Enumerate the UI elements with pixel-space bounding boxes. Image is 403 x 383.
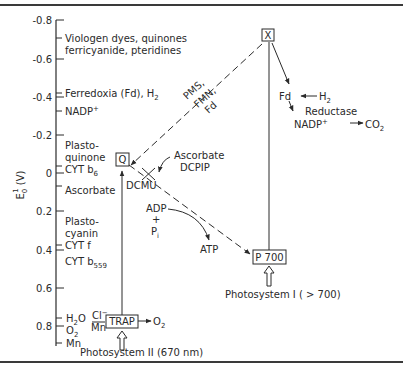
svg-text:Viologen dyes, quinones: Viologen dyes, quinones [65,33,187,44]
svg-text:Ferredoxia (Fd), H2: Ferredoxia (Fd), H2 [65,88,159,102]
svg-text:TRAP: TRAP [108,316,135,327]
svg-text:ferricyanide, pteridines: ferricyanide, pteridines [65,45,181,56]
svg-text:NADP+: NADP+ [294,118,328,130]
axis-title: E01(V) [12,170,29,199]
svg-text:Mn: Mn [66,338,81,349]
svg-text:DCPIP: DCPIP [180,162,210,173]
svg-text:E01(V): E01(V) [12,170,29,199]
photosystem-1-label: Photosystem I ( > 700) [225,289,341,300]
ps1-light-arrow [264,266,274,286]
svg-text:Mn: Mn [91,322,106,333]
svg-text:Ascorbate: Ascorbate [174,150,224,161]
tick-label: -0.2 [32,130,52,141]
node-trap: TRAP [106,315,138,328]
tick-label: 0.6 [36,283,52,294]
svg-text:P 700: P 700 [255,252,283,263]
svg-text:Fd: Fd [279,91,291,102]
svg-text:CO2: CO2 [365,119,384,133]
svg-text:CYT b6: CYT b6 [65,164,99,178]
svg-text:H2: H2 [319,91,331,105]
node-q: Q [116,153,129,166]
node-p700: P 700 [253,250,286,264]
svg-text:CYT b559: CYT b559 [65,256,107,270]
tick-label: 0.2 [36,206,52,217]
svg-text:+: + [152,214,160,225]
svg-text:Plasto-: Plasto- [65,216,99,227]
tick-label: -0.6 [32,54,52,65]
svg-text:X: X [265,30,272,41]
svg-text:Pi: Pi [151,226,159,240]
svg-text:Plasto-: Plasto- [65,140,99,151]
svg-text:quinone: quinone [65,152,105,163]
svg-text:O2: O2 [66,325,78,339]
svg-text:cyanin: cyanin [65,228,98,239]
tick-label: 0.8 [36,321,52,332]
svg-text:CYT f: CYT f [65,240,91,251]
tick-label: -0.4 [32,92,52,103]
svg-text:ADP: ADP [146,203,167,214]
tick-label: -0.8 [32,15,52,26]
z-scheme-diagram: -0.8 -0.6 -0.4 -0.2 0 0.2 0.4 0.6 0.8 E0… [0,0,403,383]
photosystem-2-label: Photosystem II (670 nm) [80,347,203,358]
potential-axis: -0.8 -0.6 -0.4 -0.2 0 0.2 0.4 0.6 0.8 E0… [12,15,64,346]
svg-text:Q: Q [119,154,127,165]
svg-text:O2: O2 [153,316,165,330]
svg-text:ATP: ATP [200,244,218,255]
node-x: X [262,29,274,41]
tick-label: 0 [46,168,52,179]
svg-text:Ascorbate: Ascorbate [65,185,115,196]
svg-text:DCMU: DCMU [126,180,157,191]
svg-text:Cl−: Cl− [92,309,108,321]
tick-label: 0.4 [36,245,52,256]
svg-text:NADP+: NADP+ [65,105,99,117]
axis-annotations: Viologen dyes, quinones ferricyanide, pt… [65,33,187,349]
svg-text:Reductase: Reductase [305,106,357,117]
